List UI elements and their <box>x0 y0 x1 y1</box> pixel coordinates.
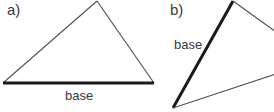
triangles-diagram <box>0 0 274 112</box>
triangle-a-base-label: base <box>65 89 93 102</box>
triangle-b-base-label: base <box>174 38 202 51</box>
panel-a-label: a) <box>7 2 20 17</box>
triangle-b-top-side <box>233 1 274 32</box>
triangle-a-right-side <box>97 1 154 83</box>
panel-b-label: b) <box>170 2 183 17</box>
triangle-b <box>173 1 274 108</box>
triangle-a <box>3 1 154 83</box>
